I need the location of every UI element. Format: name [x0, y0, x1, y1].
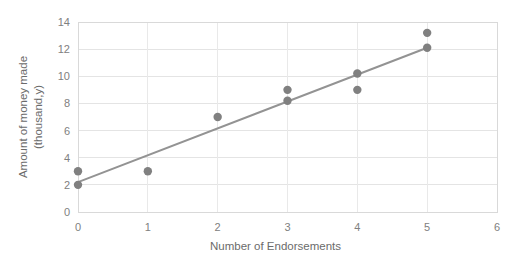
data-point — [353, 69, 361, 77]
data-point — [283, 97, 291, 105]
data-point — [144, 167, 152, 175]
x-tick-label: 6 — [494, 221, 500, 233]
data-point — [423, 44, 431, 52]
x-tick-label: 5 — [424, 221, 430, 233]
y-tick-label: 0 — [64, 206, 70, 218]
x-tick-label: 3 — [284, 221, 290, 233]
y-tick-label: 6 — [64, 125, 70, 137]
y-tick-label: 10 — [58, 70, 70, 82]
y-axis-title-line1: Amount of money made — [17, 56, 29, 178]
data-point — [213, 113, 221, 121]
x-tick-label: 1 — [145, 221, 151, 233]
data-point — [283, 86, 291, 94]
y-tick-label: 4 — [64, 152, 70, 164]
x-axis-title: Number of Endorsements — [210, 240, 341, 252]
x-tick-label: 0 — [75, 221, 81, 233]
y-tick-label: 12 — [58, 43, 70, 55]
x-tick-label: 2 — [215, 221, 221, 233]
data-point — [74, 181, 82, 189]
y-axis-title: Amount of money made(thousand,y) — [17, 56, 44, 178]
y-tick-label: 2 — [64, 179, 70, 191]
scatter-chart: 024681012140123456Number of Endorsements… — [0, 0, 520, 258]
y-axis-title-line2: (thousand,y) — [32, 85, 44, 149]
y-tick-label: 8 — [64, 97, 70, 109]
data-point — [74, 167, 82, 175]
y-tick-label: 14 — [58, 16, 70, 28]
chart-canvas: 024681012140123456Number of Endorsements… — [0, 0, 520, 258]
data-point — [353, 86, 361, 94]
x-tick-label: 4 — [354, 221, 360, 233]
data-point — [423, 29, 431, 37]
